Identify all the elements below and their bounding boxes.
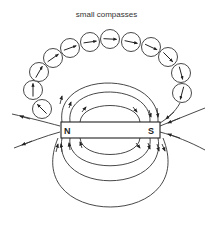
compass bbox=[81, 33, 100, 52]
compass bbox=[33, 100, 52, 119]
compass bbox=[172, 64, 191, 83]
bar-magnet: N S bbox=[61, 122, 160, 138]
compass bbox=[142, 38, 161, 57]
field-line-bottom-3 bbox=[61, 138, 158, 181]
north-pole-label: N bbox=[64, 126, 71, 136]
compass bbox=[24, 81, 43, 100]
field-line-right-compass bbox=[160, 103, 180, 123]
field-line-right-upper bbox=[160, 108, 205, 126]
field-line-bottom-1 bbox=[80, 138, 140, 155]
south-pole-label: S bbox=[148, 126, 154, 136]
field-line-top-inner bbox=[80, 106, 140, 123]
compass bbox=[101, 30, 120, 49]
compass-needle-arrow-icon bbox=[104, 39, 117, 40]
compass bbox=[122, 33, 141, 52]
field-line-right-lower bbox=[160, 132, 205, 150]
field-line-top-mid bbox=[70, 92, 150, 122]
magnetic-field-diagram: N S bbox=[0, 0, 213, 231]
field-line-bottom-2 bbox=[70, 138, 150, 166]
field-line-top-outer bbox=[62, 83, 158, 122]
compass bbox=[159, 48, 178, 67]
compass bbox=[61, 39, 80, 58]
compass bbox=[173, 84, 192, 103]
compass bbox=[30, 63, 49, 82]
compass bbox=[44, 49, 63, 68]
field-line-left-lower bbox=[14, 132, 60, 148]
